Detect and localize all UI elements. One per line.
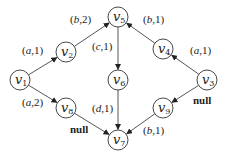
node-v1: v1: [10, 70, 30, 90]
node-v8: v8: [56, 98, 76, 118]
edge-v3-v4: [172, 55, 199, 74]
edge-label-null: null: [70, 123, 88, 135]
node-v9: v9: [153, 98, 173, 118]
edge-label: (d,1): [92, 102, 113, 115]
node-v6: v6: [108, 70, 128, 90]
edge-label-null: null: [193, 94, 211, 106]
edge-label: (b,1): [143, 124, 164, 137]
node-v3: v3: [197, 70, 217, 90]
edge-label: (b,1): [143, 13, 164, 26]
nodes-layer: v1v2v3v4v5v6v7v8v9: [10, 7, 217, 150]
graph-canvas: (a,1)(b,2)(c,1)(b,1)(a,1)(a,2)(d,1)nulln…: [0, 0, 233, 152]
edge-label: (c,1): [92, 40, 113, 53]
edge-label: (a,1): [190, 44, 211, 57]
edge-label: (a,2): [22, 96, 43, 109]
graph-diagram: (a,1)(b,2)(c,1)(b,1)(a,1)(a,2)(d,1)nulln…: [0, 0, 233, 152]
edge-v4-v5: [127, 23, 155, 43]
edge-v1-v2: [29, 57, 57, 74]
node-v5: v5: [108, 7, 128, 27]
edge-label: (a,1): [22, 44, 43, 57]
edge-label: (b,2): [70, 13, 91, 26]
node-v4: v4: [153, 39, 173, 59]
node-v7: v7: [108, 130, 128, 150]
node-v2: v2: [56, 42, 76, 62]
